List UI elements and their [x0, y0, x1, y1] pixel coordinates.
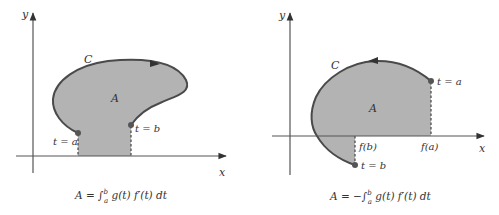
left-point-b: [128, 122, 134, 128]
left-x-label: x: [219, 166, 226, 179]
right-t-b-label: t = b: [361, 160, 386, 171]
right-point-b: [352, 162, 358, 168]
left-t-b-label: t = b: [135, 123, 160, 134]
right-x-label: x: [479, 142, 486, 155]
right-fb-label: f(b): [358, 141, 377, 152]
right-fa-label: f(a): [420, 141, 439, 152]
left-t-a-label: t = a: [53, 136, 78, 147]
right-t-a-label: t = a: [437, 76, 462, 87]
diagram-canvas: y x C A t = a t = b A = ∫ba g(t) f′(t) d…: [0, 0, 499, 215]
left-y-label: y: [21, 8, 29, 21]
left-panel: y x C A t = a t = b A = ∫ba g(t) f′(t) d…: [16, 8, 226, 205]
right-panel: y x C A t = a t = b f(b) f(a) A = −∫ba g…: [272, 9, 486, 206]
right-y-label: y: [278, 9, 286, 22]
left-c-label: C: [84, 53, 93, 66]
right-c-label: C: [331, 59, 340, 72]
right-point-a: [428, 78, 434, 84]
right-a-label: A: [368, 102, 377, 115]
left-a-label: A: [110, 92, 119, 105]
left-formula: A = ∫ba g(t) f′(t) dt: [74, 188, 168, 205]
right-formula: A = −∫ba g(t) f′(t) dt: [329, 189, 432, 206]
